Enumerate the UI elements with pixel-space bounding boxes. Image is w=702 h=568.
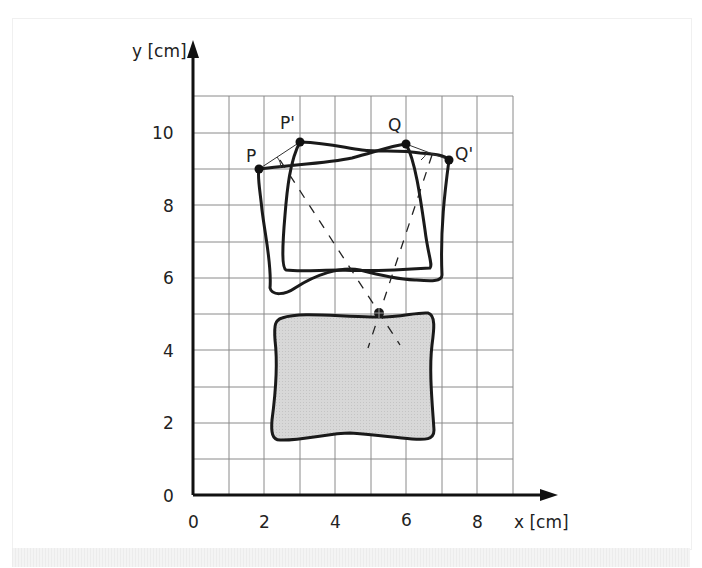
label-p-prime: P': [280, 113, 295, 133]
rotation-diagram: P P' Q Q' y [cm] x [cm] 0 2 4 6 8 10 0 2…: [0, 0, 702, 568]
svg-text:8: 8: [163, 196, 174, 216]
svg-text:10: 10: [152, 123, 174, 143]
svg-text:6: 6: [163, 268, 174, 288]
svg-text:2: 2: [259, 512, 270, 532]
point-q: [402, 140, 411, 149]
x-axis-arrow-icon: [540, 489, 558, 501]
svg-text:2: 2: [163, 413, 174, 433]
svg-text:4: 4: [330, 512, 341, 532]
shaded-rectangle: [272, 313, 434, 440]
label-q-prime: Q': [455, 144, 473, 164]
label-q: Q: [388, 115, 401, 135]
x-tick-labels: 0 2 4 6 8: [188, 510, 483, 532]
outline-pq: [259, 142, 431, 271]
svg-text:8: 8: [472, 512, 483, 532]
svg-text:0: 0: [163, 486, 174, 506]
point-p-prime: [296, 138, 305, 147]
x-axis-label: x [cm]: [514, 512, 569, 532]
point-q-prime: [445, 156, 454, 165]
svg-text:0: 0: [188, 512, 199, 532]
svg-text:4: 4: [163, 341, 174, 361]
svg-text:6: 6: [401, 510, 412, 530]
label-p: P: [246, 146, 256, 166]
y-axis-label: y [cm]: [132, 41, 187, 61]
y-axis-arrow-icon: [187, 40, 199, 58]
y-tick-labels: 0 2 4 6 8 10: [152, 123, 174, 506]
rotation-center: [374, 308, 384, 318]
